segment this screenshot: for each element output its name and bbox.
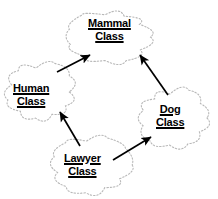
node-label-dog-line1: Dog: [156, 103, 184, 116]
edge-dog-to-mammal: [140, 55, 168, 95]
node-label-dog-line2: Class: [156, 116, 184, 129]
node-label-lawyer-line1: Lawyer: [64, 152, 101, 165]
node-label-dog: Dog Class: [156, 103, 184, 128]
node-label-human-line2: Class: [13, 95, 49, 108]
node-label-mammal: Mammal Class: [88, 17, 131, 42]
node-label-human: Human Class: [13, 82, 49, 107]
class-diagram: Mammal Class Human Class Dog Class Lawye…: [0, 0, 218, 199]
node-label-lawyer-line2: Class: [64, 165, 101, 178]
node-label-human-line1: Human: [13, 82, 49, 95]
node-label-lawyer: Lawyer Class: [64, 152, 101, 177]
node-label-mammal-line2: Class: [88, 30, 131, 43]
edge-human-to-mammal: [57, 55, 90, 72]
node-label-mammal-line1: Mammal: [88, 17, 131, 30]
